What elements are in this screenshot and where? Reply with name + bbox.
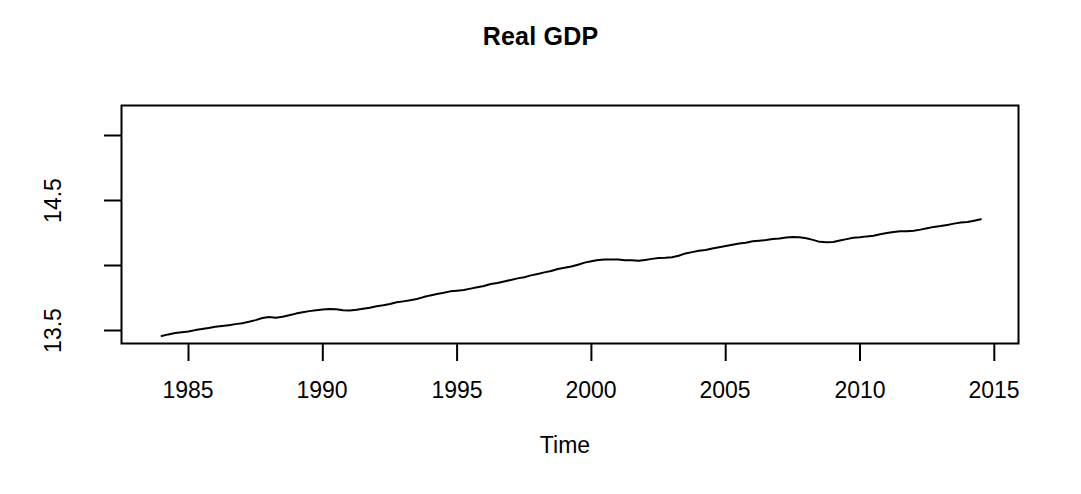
x-tick-label-2000: 2000 xyxy=(541,377,641,404)
x-tick-label-1990: 1990 xyxy=(272,377,372,404)
x-tick-label-2010: 2010 xyxy=(810,377,910,404)
x-tick-label-2015: 2015 xyxy=(944,377,1044,404)
y-axis-ticks xyxy=(104,136,121,331)
y-tick-label-13-5: 13.5 xyxy=(40,301,67,361)
x-axis-ticks xyxy=(189,343,995,361)
plot-svg xyxy=(0,0,1081,494)
x-axis-label: Time xyxy=(0,432,1081,459)
x-tick-label-1995: 1995 xyxy=(407,377,507,404)
x-tick-label-2005: 2005 xyxy=(675,377,775,404)
plot-box-border xyxy=(122,106,1019,344)
chart-canvas: Real GDP 14.5 13.5 1985 1990 1995 2000 2 xyxy=(0,0,1081,494)
x-tick-label-1985: 1985 xyxy=(138,377,238,404)
y-tick-label-14-5: 14.5 xyxy=(40,171,67,231)
data-series-line xyxy=(162,219,981,336)
